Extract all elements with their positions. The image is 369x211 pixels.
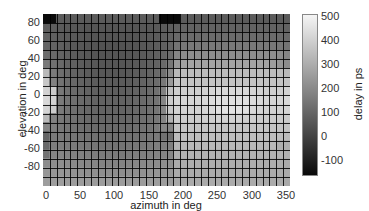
heatmap-plot-area: [43, 14, 290, 186]
colorbar-tick: 400: [321, 35, 339, 46]
x-tick: 350: [277, 190, 295, 201]
colorbar-tick: 500: [321, 11, 339, 22]
colorbar: [302, 14, 318, 176]
colorbar-tick: 0: [321, 131, 327, 142]
y-tick: 80: [28, 17, 40, 28]
y-tick: 20: [28, 71, 40, 82]
x-tick: 300: [243, 190, 261, 201]
heatmap-canvas: [43, 14, 290, 186]
x-tick: 50: [74, 190, 86, 201]
y-tick: 40: [28, 53, 40, 64]
y-tick: 0: [34, 89, 40, 100]
y-tick: -80: [24, 161, 40, 172]
colorbar-tick: 100: [321, 107, 339, 118]
colorbar-tick: 200: [321, 83, 339, 94]
colorbar-tick: 300: [321, 59, 339, 70]
y-tick: 60: [28, 35, 40, 46]
colorbar-label: delay in ps: [352, 44, 364, 144]
y-axis-label: elevation in deg: [16, 49, 28, 149]
x-tick: 0: [43, 190, 49, 201]
x-axis-label: azimuth in deg: [116, 199, 216, 211]
colorbar-tick: -100: [321, 155, 343, 166]
